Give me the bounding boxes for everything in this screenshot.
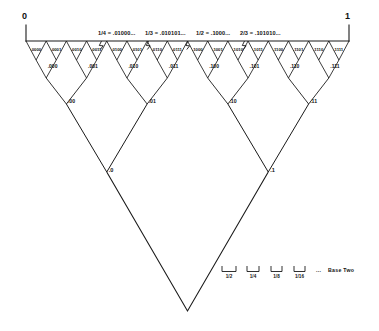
level1-branches — [66, 104, 308, 172]
endpoint-label-one: 1 — [345, 12, 350, 21]
level4-label-5: .0101 — [132, 48, 143, 52]
fraction-note-1: 1/3 = .010101... — [145, 31, 186, 37]
level3-label-2: .010 — [128, 64, 138, 69]
legend-bracket-label-2: 1/8 — [272, 275, 282, 280]
legend-caption: Base Two — [328, 268, 354, 273]
level2-label-1: .01 — [149, 99, 156, 104]
level3-label-3: .011 — [169, 64, 178, 69]
diagram-canvas: 0 1 1/4 = .01000...1/3 = .010101...1/2 =… — [0, 0, 379, 331]
level4-label-2: .0010 — [71, 48, 82, 52]
level4-label-1: .0001 — [51, 48, 62, 52]
level3-label-6: .110 — [290, 64, 299, 69]
level4-label-7: .0111 — [172, 48, 182, 52]
level4-label-4: .0100 — [111, 48, 122, 52]
level2-branches — [46, 78, 329, 104]
level2-branch-0 — [46, 78, 86, 104]
level4-label-6: .0110 — [152, 48, 162, 52]
level4-label-14: .1110 — [313, 48, 323, 52]
legend-bracket-label-3: 1/16 — [295, 275, 305, 280]
level2-branch-3 — [288, 78, 328, 104]
level1-branch-1 — [228, 104, 309, 172]
level0-branches — [107, 172, 269, 311]
fraction-note-2: 1/2 = .1000... — [196, 31, 230, 37]
legend-bracket-3 — [294, 266, 305, 272]
level4-label-10: .1010 — [232, 48, 243, 52]
level3-label-7: .111 — [330, 64, 339, 69]
fraction-note-3: 2/3 = .101010... — [240, 31, 281, 37]
level4-label-8: .1000 — [192, 48, 203, 52]
level2-label-3: .11 — [310, 99, 317, 104]
level1-label-1: .1 — [270, 168, 275, 174]
level2-label-2: .10 — [229, 99, 236, 104]
root-branch — [107, 172, 269, 311]
legend-bracket-1 — [247, 266, 259, 272]
level4-label-3: .0011 — [91, 48, 101, 52]
level4-label-13: .1101 — [293, 48, 303, 52]
legend-bracket-label-0: 1/2 — [224, 275, 234, 280]
level4-label-12: .1100 — [273, 48, 283, 52]
level3-label-5: .101 — [250, 64, 260, 69]
unit-interval-bracket — [26, 25, 349, 41]
level3-label-4: .100 — [209, 64, 219, 69]
level4-label-0: .0000 — [31, 48, 42, 52]
fraction-note-0: 1/4 = .01000... — [98, 31, 135, 37]
legend-brackets — [222, 266, 305, 272]
level2-label-0: .00 — [68, 99, 75, 104]
level1-label-0: .0 — [109, 168, 114, 174]
legend-bracket-label-1: 1/4 — [248, 275, 258, 280]
legend-bracket-0 — [222, 266, 236, 272]
legend-ellipsis: ... — [316, 268, 321, 273]
level4-label-11: .1011 — [253, 48, 263, 52]
level2-branch-2 — [208, 78, 248, 104]
legend-bracket-2 — [271, 266, 282, 272]
level4-label-9: .1001 — [212, 48, 223, 52]
level2-branch-1 — [127, 78, 167, 104]
level1-branch-0 — [66, 104, 147, 172]
endpoint-label-zero: 0 — [22, 12, 27, 21]
level3-label-0: .000 — [48, 64, 58, 69]
level3-label-1: .001 — [88, 64, 98, 69]
level4-label-15: .1111 — [333, 48, 343, 52]
